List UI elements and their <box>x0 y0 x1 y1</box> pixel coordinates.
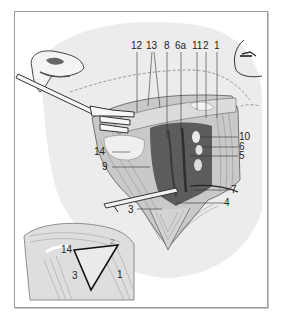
label-7: 7 <box>231 185 237 195</box>
label-12: 12 <box>131 41 142 51</box>
inset-label-3: 3 <box>72 271 78 281</box>
label-4: 4 <box>224 198 230 208</box>
inset-diagram <box>24 223 134 300</box>
label-9: 9 <box>102 162 108 172</box>
inset-label-14: 14 <box>61 245 72 255</box>
label-5: 5 <box>239 151 245 161</box>
label-13: 13 <box>146 41 157 51</box>
inset-label-2: 2 <box>110 237 114 247</box>
label-8: 8 <box>164 41 170 51</box>
label-3: 3 <box>128 205 134 215</box>
label-2: 2 <box>203 41 209 51</box>
label-14: 14 <box>94 147 105 157</box>
label-11: 11 <box>192 41 202 51</box>
label-6a: 6a <box>175 41 186 51</box>
label-1: 1 <box>214 41 220 51</box>
inset-label-1: 1 <box>117 270 123 280</box>
